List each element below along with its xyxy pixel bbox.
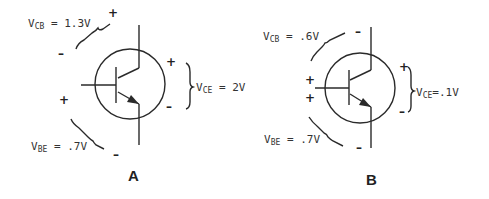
vce-label-a: VCE = 2V: [196, 81, 246, 95]
vbe-top-sign-a: +: [59, 93, 69, 107]
vbe-bottom-sign-a: –: [113, 148, 119, 162]
vbe-bottom-sign-b: –: [356, 141, 362, 155]
vce-top-sign-a: +: [166, 55, 176, 69]
vcb-bottom-sign-a: –: [58, 47, 64, 61]
vbe-top-sign-b: +: [305, 91, 315, 105]
vcb-label-b: VCB = .6V: [263, 30, 319, 44]
npn-transistor-icon: [315, 27, 395, 148]
vce-label-b: VCE=.1V: [416, 86, 459, 100]
vce-top-sign-b: +: [399, 60, 409, 74]
vcb-label-a: VCB = 1.3V: [28, 17, 91, 31]
vce-bottom-sign-b: –: [399, 105, 405, 119]
emitter-arrow-icon: [359, 98, 371, 107]
vcb-top-sign-b: –: [355, 25, 361, 39]
npn-transistor-icon: [81, 25, 165, 145]
vce-brace-a: [186, 63, 193, 109]
vcb-bottom-sign-b: +: [305, 73, 315, 87]
transistor-bias-diagram: VCB = 1.3V + – + – VCE = 2V + VBE = .7V …: [0, 0, 489, 199]
emitter-arrow-icon: [127, 95, 139, 104]
diagram-label-b: B: [366, 171, 377, 188]
vcb-top-sign-a: +: [108, 6, 118, 20]
diagram-b: VCB = .6V – + + – VCE=.1V + VBE = .7V – …: [263, 25, 459, 188]
vbe-label-a: VBE = .7V: [31, 140, 87, 154]
diagram-a: VCB = 1.3V + – + – VCE = 2V + VBE = .7V …: [28, 6, 246, 184]
vce-bottom-sign-a: –: [166, 100, 172, 114]
vbe-label-b: VBE = .7V: [264, 133, 320, 147]
diagram-label-a: A: [128, 167, 139, 184]
